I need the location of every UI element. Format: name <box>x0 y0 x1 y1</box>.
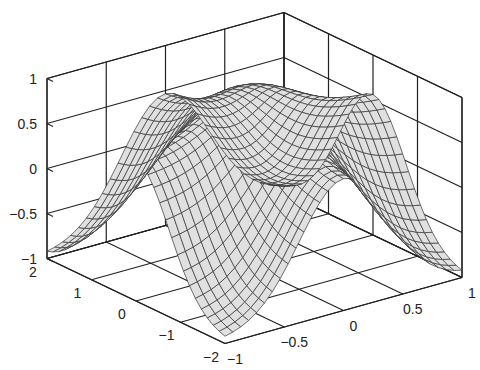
x-tick-label: −0.5 <box>280 334 308 350</box>
y-tick-label: 0 <box>118 306 126 322</box>
surface-mesh <box>47 84 462 336</box>
z-tick-label: −0.5 <box>9 206 37 222</box>
x-tick-label: 0 <box>350 318 358 334</box>
y-tick-label: −1 <box>159 327 175 343</box>
z-tick-label: 0.5 <box>18 116 38 132</box>
z-tick-label: 1 <box>29 71 37 87</box>
surface-plot: −1−0.500.51 −2−1012 −1−0.500.51 <box>0 0 480 370</box>
x-tick-label: 1 <box>468 285 476 301</box>
x-tick-label: −1 <box>227 351 243 367</box>
y-tick-label: 1 <box>74 285 82 301</box>
y-tick-label: 2 <box>29 264 37 280</box>
z-tick-label: 0 <box>29 161 37 177</box>
x-tick-label: 0.5 <box>403 301 423 317</box>
y-tick-label: −2 <box>203 349 219 365</box>
